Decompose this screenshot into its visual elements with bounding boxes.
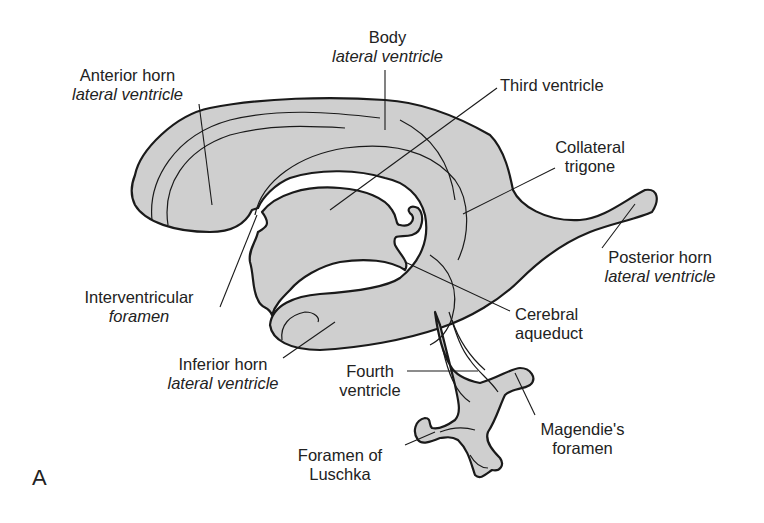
panel-letter: A [32, 465, 47, 491]
label-posterior-horn: Posterior horn lateral ventricle [585, 248, 735, 286]
label-collateral-trigone: Collateral trigone [540, 138, 640, 176]
label-interventricular-foramen: Interventricular foramen [64, 288, 214, 326]
label-inferior-horn: Inferior horn lateral ventricle [148, 355, 298, 393]
label-cerebral-aqueduct: Cerebral aqueduct [515, 305, 583, 343]
label-anterior-horn: Anterior horn lateral ventricle [50, 66, 205, 104]
label-third-ventricle: Third ventricle [500, 76, 604, 95]
label-magendie-foramen: Magendie's foramen [525, 420, 640, 458]
label-foramen-luschka: Foramen of Luschka [280, 446, 400, 484]
label-fourth-ventricle: Fourth ventricle [330, 362, 410, 400]
label-body: Body lateral ventricle [310, 28, 465, 66]
